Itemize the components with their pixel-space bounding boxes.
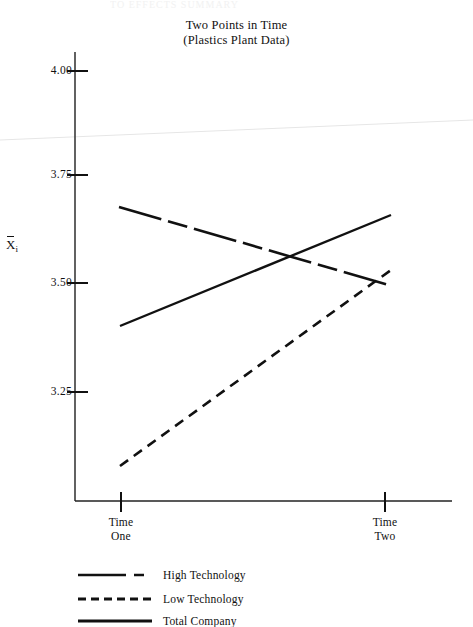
series-line-high-technology: [119, 207, 392, 286]
series-line-total-company: [120, 215, 391, 326]
series-line-low-technology: [120, 270, 391, 466]
scan-artifact-line: [0, 120, 473, 140]
